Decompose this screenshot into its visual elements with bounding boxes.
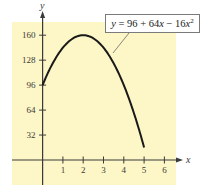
x-axis-arrow-icon [176, 158, 183, 163]
x-tick-label: 6 [162, 165, 167, 175]
y-axis-arrow-icon [40, 11, 45, 18]
y-tick-label: 128 [22, 55, 36, 65]
equation-exponent: 2 [190, 17, 194, 25]
equation-label: y = 96 + 64x − 16x2 [105, 14, 200, 33]
x-axis-label: x [185, 154, 191, 165]
y-tick-label: 96 [27, 80, 37, 90]
equation-part: − 16 [164, 18, 186, 29]
equation-part: = 96 + 64 [116, 18, 159, 29]
y-tick-label: 32 [27, 130, 36, 140]
x-tick-label: 2 [81, 165, 86, 175]
y-tick-label: 64 [27, 105, 37, 115]
y-axis-label: y [39, 0, 45, 11]
x-tick-label: 1 [61, 165, 66, 175]
y-tick-label: 160 [22, 30, 36, 40]
x-tick-label: 5 [142, 165, 147, 175]
x-tick-label: 3 [101, 165, 106, 175]
x-tick-label: 4 [122, 165, 127, 175]
